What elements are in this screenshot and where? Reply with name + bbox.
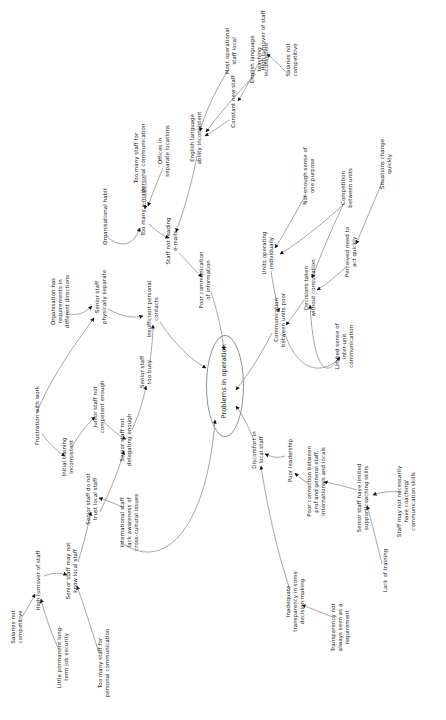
node-label-offices_separate_locations: Offices in separate locations: [157, 119, 171, 183]
node-label-discomfort_in_local_staff: Discomfort in local staff: [251, 423, 265, 477]
diagram-canvas: Problems in operationPoor communication …: [0, 0, 446, 720]
node-label-units_operating_individually: Units operating individually: [261, 224, 275, 282]
edge-too-many-staff-bottom: [77, 586, 99, 653]
node-label-little_permanent_job_security: Little permanent long- term job security: [56, 620, 70, 694]
node-label-senior_staff_do_not_trust: Senior staff do not trust local staff: [85, 467, 99, 531]
node-label-salaries_not_competitive_top: Salaries not competitive: [285, 33, 299, 87]
node-label-organisation_requirements: Organisation has requirements in differe…: [50, 268, 71, 334]
node-label-international_staff_cross_cultural: International staff lack awareness of cr…: [119, 487, 140, 557]
edge-insufficient-contacts: [160, 322, 206, 368]
node-label-initial_training_inconsistent: Initial training inconsistent: [61, 429, 75, 485]
edge-salaries-bottom: [22, 594, 35, 617]
node-label-situations_change_quickly: Situations change quickly: [379, 133, 393, 195]
node-label-inadequate_transparency: Inadequate transparency in some decision…: [285, 566, 306, 636]
edge-senior-physically-separate: [108, 309, 143, 317]
node-label-high_turnover_bottom: High turnover of staff: [35, 543, 42, 617]
node-label-senior_staff_not_delegating: Senior staff not delegating enough: [119, 407, 133, 473]
edge-senior-limited-support: [324, 482, 357, 490]
node-label-high_turnover_top: High turnover of staff: [260, 3, 267, 77]
node-label-poor_connection_prof_general: Poor connection between prof and general…: [306, 438, 327, 524]
node-label-senior_staff_may_not_know_local: Senior staff may not know local staff: [65, 535, 79, 607]
node-label-frustration_with_work: Frustration with work: [34, 378, 41, 452]
node-label-poor_leadership: Poor leadership: [287, 429, 294, 491]
edge-decisions-to-units-poor: [286, 300, 304, 325]
node-label-staff_not_reading_emails: Staff not reading e-mails: [165, 212, 179, 270]
edge-competition-to-units: [280, 205, 343, 254]
node-label-too_many_staff_personal_comm_bottom: Too many staff for personal communicatio…: [97, 623, 111, 703]
node-label-senior_staff_too_busy: Senior staff too busy: [139, 346, 153, 398]
node-label-senior_staff_limited_support: Senior staff have limited support/coachi…: [356, 454, 370, 542]
node-label-limited_sense_inter_unit: Limited sense of inter-unit communicatio…: [334, 317, 355, 375]
edge-units-poor-to-limited-sense: [285, 334, 340, 368]
node-label-decisions_without_consultation: Decisions taken without consultation: [303, 254, 317, 322]
node-label-poor_communication: Poor communication of information: [198, 245, 212, 315]
node-label-insufficient_personal_contacts: Insufficient personal contacts: [146, 274, 160, 344]
node-label-problems_in_operation: Problems in operation: [220, 321, 228, 441]
node-label-senior_staff_physically_separate: Senior staff physically separate: [94, 264, 108, 330]
node-label-organisational_habit: Organisational habit: [102, 180, 109, 252]
node-label-salaries_not_competitive_bottom: Salaries not competitive: [10, 600, 24, 654]
node-label-junior_staff_not_competent: Junior staff not competent enough: [92, 374, 106, 440]
node-label-communication_between_units_poor: Communication between units poor: [273, 286, 287, 354]
node-label-perceived_need_to_act_quickly: Perceived need to act quickly: [344, 221, 358, 283]
node-label-english_language_ability: English language ability inconsistent: [189, 105, 203, 171]
edge-high-turnover-bottom: [44, 573, 67, 576]
edge-organisational-habit: [108, 228, 140, 244]
edge-perceived-need: [317, 266, 347, 290]
node-label-transparency_not_requirement: Transparency not always seen as a requir…: [330, 596, 351, 658]
node-label-constant_new_staff: Constant new staff: [230, 67, 237, 135]
node-label-staff_may_not_have_coaching: Staff may not necessarily have coaching/…: [396, 457, 417, 545]
node-label-lack_of_training: Lack of training: [382, 540, 389, 600]
node-label-not_enough_sense_of_one_purpose: Not enough sense of one purpose: [302, 140, 316, 212]
edge-poor-leadership: [265, 454, 285, 457]
node-label-too_many_staff_personal_comm_top: Too many staff for personal communicatio…: [133, 118, 147, 198]
node-label-competition_between_units: Competition between units: [340, 160, 354, 216]
